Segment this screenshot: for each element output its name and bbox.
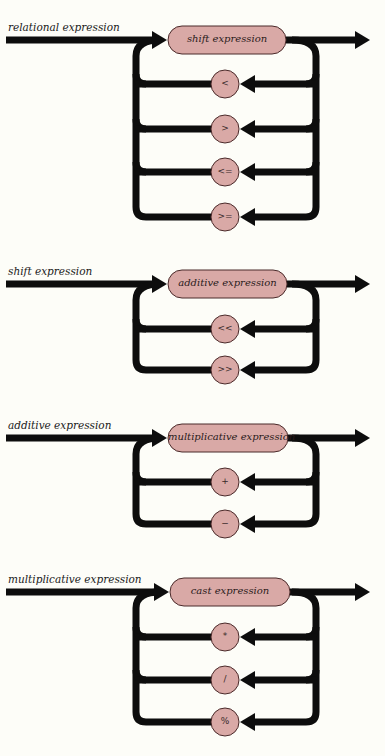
operator-symbol: / xyxy=(211,675,239,684)
operator-symbol: >> xyxy=(211,365,239,374)
operator-symbol: <= xyxy=(211,167,239,176)
operator-symbol: << xyxy=(211,324,239,333)
operator-symbol: > xyxy=(211,124,239,133)
row-arrow-icon xyxy=(240,163,255,181)
row-arrow-icon xyxy=(240,320,255,338)
row-arrow-icon xyxy=(240,515,255,533)
row-arrow-icon xyxy=(240,361,255,379)
diagram-title: relational expression xyxy=(8,21,120,33)
exit-arrow-icon xyxy=(355,429,370,447)
row-arrow-icon xyxy=(240,713,255,731)
nonterminal-label: additive expression xyxy=(168,278,287,288)
diagram-title: multiplicative expression xyxy=(8,573,142,585)
operator-symbol: % xyxy=(211,717,239,726)
exit-arrow-icon xyxy=(355,275,370,293)
nonterminal-label: cast expression xyxy=(170,586,290,596)
row-arrow-icon xyxy=(240,120,255,138)
operator-symbol: + xyxy=(211,477,239,486)
row-arrow-icon xyxy=(240,628,255,646)
operator-symbol: >= xyxy=(211,212,239,221)
exit-arrow-icon xyxy=(355,31,370,49)
diagram-title: additive expression xyxy=(8,419,111,431)
row-arrow-icon xyxy=(240,671,255,689)
operator-symbol: − xyxy=(211,519,239,528)
operator-symbol: * xyxy=(211,632,239,641)
diagram-title: shift expression xyxy=(8,265,92,277)
loop-left-bar xyxy=(136,592,160,722)
row-arrow-icon xyxy=(240,208,255,226)
operator-symbol: < xyxy=(211,79,239,88)
row-arrow-icon xyxy=(240,75,255,93)
loop-right-bar xyxy=(292,592,316,722)
nonterminal-label: shift expression xyxy=(168,34,286,44)
row-arrow-icon xyxy=(240,473,255,491)
nonterminal-label: multiplicative expression xyxy=(168,432,288,442)
exit-arrow-icon xyxy=(355,583,370,601)
syntax-diagram-canvas xyxy=(0,0,385,756)
